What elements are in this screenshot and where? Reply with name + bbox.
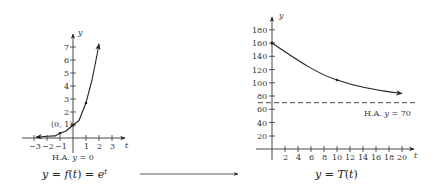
point-t-10 [336, 79, 339, 82]
right-x-tick: 8 [322, 153, 327, 162]
left-y-tick: 4 [64, 82, 69, 91]
right-x-tick: 16 [371, 153, 381, 162]
left-x-tick: 3 [110, 142, 115, 151]
right-x-tick: 20 [397, 153, 407, 162]
right-asymptote-label: H.A. y = 70 [364, 109, 411, 118]
diagram-canvas: t y −3 −2 −1 1 2 3 2 3 4 5 6 [0, 0, 439, 189]
right-y-axis-label: y [278, 11, 284, 20]
left-y-tick: 5 [64, 69, 69, 78]
point-t-0 [271, 42, 274, 45]
right-x-tick: 4 [296, 153, 301, 162]
right-y-tick: 100 [252, 79, 267, 88]
cooling-curve [272, 43, 402, 94]
left-x-tick: −1 [55, 142, 67, 151]
left-y-tick: 6 [64, 56, 69, 65]
right-x-tick: 10 [332, 153, 342, 162]
right-y-tick: 120 [252, 66, 267, 75]
left-graph: t y −3 −2 −1 1 2 3 2 3 4 5 6 [22, 28, 129, 181]
right-x-tick: 6 [309, 153, 314, 162]
left-x-tick: 2 [97, 142, 102, 151]
left-x-tick: −2 [42, 142, 54, 151]
right-x-axis-label: t [414, 151, 418, 160]
left-x-axis-label: t [125, 141, 129, 150]
right-y-tick: 160 [252, 39, 267, 48]
right-x-tick: 14 [358, 153, 368, 162]
left-y-tick: 2 [64, 108, 69, 117]
left-y-axis-label: y [77, 28, 83, 37]
point-label-0-1: (0, 1) [51, 120, 73, 129]
left-y-tick: 3 [64, 95, 69, 104]
left-y-tick: 7 [64, 43, 69, 52]
right-y-tick: 40 [257, 119, 267, 128]
right-x-tick: 18 [384, 153, 394, 162]
right-y-tick: 60 [257, 105, 267, 114]
right-graph: t y 2 4 6 8 10 12 14 16 18 20 [252, 11, 418, 181]
right-function-caption: y = T(t) [314, 168, 358, 181]
right-y-tick: 140 [252, 52, 267, 61]
left-x-tick: 1 [84, 142, 89, 151]
point-t-minus-1 [59, 132, 62, 135]
left-asymptote-label: H.A. y = 0 [52, 153, 94, 162]
point-t-1 [85, 102, 88, 105]
right-x-tick: 2 [283, 153, 288, 162]
right-y-tick: 20 [257, 132, 267, 141]
right-y-tick: 80 [257, 92, 267, 101]
left-x-tick: −3 [29, 142, 41, 151]
left-function-caption: y = f(t) = et [41, 168, 107, 181]
right-y-tick: 180 [252, 26, 267, 35]
right-x-tick: 12 [345, 153, 355, 162]
